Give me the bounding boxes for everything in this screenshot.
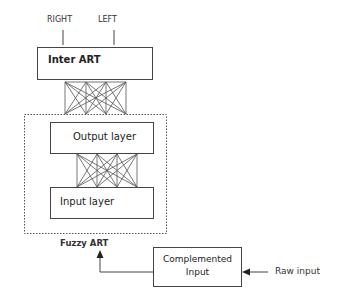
- complemented-input-box: Complemented Input: [153, 247, 242, 287]
- inter-art-label: Inter ART: [48, 54, 101, 65]
- top-connection-mesh: [65, 82, 126, 114]
- complemented-input-line2: Input: [154, 267, 241, 277]
- complemented-input-line1: Complemented: [154, 254, 241, 264]
- raw-input-label: Raw input: [275, 266, 320, 276]
- arrowhead-up-icon: [97, 250, 104, 258]
- left-label: LEFT: [98, 15, 117, 24]
- fuzzy-art-label: Fuzzy ART: [60, 238, 108, 248]
- input-layer-box: Input layer: [50, 187, 154, 219]
- inter-art-box: Inter ART: [37, 47, 153, 80]
- input-layer-label: Input layer: [60, 196, 114, 207]
- complemented-to-fuzzy-line: [100, 258, 153, 272]
- output-layer-box: Output layer: [50, 122, 154, 154]
- arrowhead-left-icon: [242, 269, 250, 276]
- inner-connection-mesh: [77, 154, 137, 187]
- output-layer-label: Output layer: [73, 131, 136, 142]
- right-label: RIGHT: [47, 15, 72, 24]
